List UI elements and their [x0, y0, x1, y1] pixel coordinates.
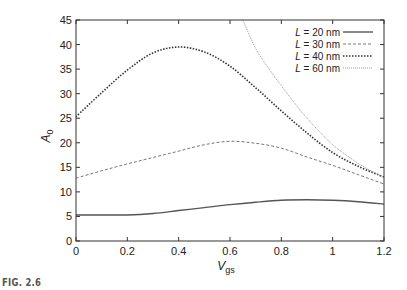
y-tick-label: 0: [66, 235, 72, 247]
legend-label: L = 20 nm: [295, 27, 340, 38]
y-tick-label: 25: [60, 112, 72, 124]
x-tick-label: 1.2: [376, 245, 391, 257]
y-tick-label: 45: [60, 14, 72, 26]
series-line: [76, 141, 384, 184]
figure-label: FIG. 2.6: [2, 277, 41, 288]
legend-label: L = 30 nm: [295, 39, 340, 50]
legend-label: L = 60 nm: [295, 63, 340, 74]
y-tick-label: 15: [60, 161, 72, 173]
x-tick-label: 1: [330, 245, 336, 257]
x-tick-label: 0.8: [274, 245, 289, 257]
legend: L = 20 nmL = 30 nmL = 40 nmL = 60 nm: [295, 27, 373, 74]
x-tick-label: 0.4: [171, 245, 186, 257]
y-tick-label: 5: [66, 210, 72, 222]
x-axis-title: Vgs: [217, 259, 235, 275]
legend-label: L = 40 nm: [295, 51, 340, 62]
chart: 00.20.40.60.811.2051015202530354045 L = …: [0, 0, 407, 290]
y-tick-label: 10: [60, 186, 72, 198]
series-line: [76, 200, 384, 215]
x-tick-label: 0: [73, 245, 79, 257]
y-tick-label: 35: [60, 63, 72, 75]
x-tick-label: 0.2: [120, 245, 135, 257]
axis-ticks: 00.20.40.60.811.2051015202530354045: [60, 14, 392, 257]
y-tick-label: 20: [60, 137, 72, 149]
y-tick-label: 40: [60, 39, 72, 51]
y-tick-label: 30: [60, 88, 72, 100]
x-tick-label: 0.6: [222, 245, 237, 257]
y-axis-title: A0: [39, 129, 55, 143]
